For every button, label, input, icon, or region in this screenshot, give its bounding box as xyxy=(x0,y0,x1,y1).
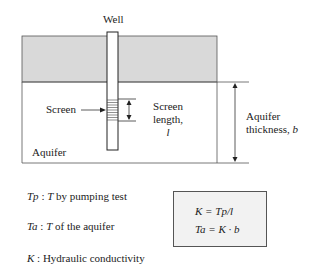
legend-separator: : xyxy=(38,220,47,232)
legend-separator: : xyxy=(39,190,48,202)
thickness-arrowhead-down xyxy=(233,157,238,162)
screen-label: Screen xyxy=(46,103,76,116)
screen-length-arrowhead-up xyxy=(127,100,132,105)
legend-text: by pumping test xyxy=(53,190,127,202)
legend-separator: : xyxy=(34,252,43,264)
formula-hydraulic-conductivity: K = Tp/l xyxy=(195,205,233,217)
well-label: Well xyxy=(103,13,124,26)
well-pipe xyxy=(107,32,118,150)
thickness-arrowhead-up xyxy=(233,83,238,88)
legend-item-ta: Ta : T of the aquifer xyxy=(27,220,114,233)
legend-item-tp: Tp : T by pumping test xyxy=(27,190,127,203)
aquifer-thickness-line1: Aquifer xyxy=(246,110,298,123)
legend-text: Hydraulic conductivity xyxy=(43,252,145,264)
screen-length-arrowhead-down xyxy=(127,115,132,120)
legend-text: of the aquifer xyxy=(52,220,114,232)
aquifer-thickness-label: Aquifer thickness, b xyxy=(246,110,298,136)
legend-symbol: Ta xyxy=(27,220,38,232)
formula-aquifer-transmissivity: Ta = K · b xyxy=(195,223,240,235)
screen-length-line1: Screen xyxy=(150,100,186,113)
aquifer-label: Aquifer xyxy=(32,146,66,159)
screen-length-dimension xyxy=(118,99,136,121)
screen-length-line2: length, xyxy=(150,113,186,126)
confining-layer xyxy=(22,36,217,82)
formula-box: K = Tp/l Ta = K · b xyxy=(173,191,267,247)
screen-length-symbol: l xyxy=(150,126,186,139)
aquifer-thickness-symbol: b xyxy=(292,123,298,135)
aquifer-thickness-line2: thickness, xyxy=(246,123,290,135)
legend-symbol: Tp xyxy=(27,190,39,202)
screen-pointer-arrow xyxy=(81,108,106,113)
screen-length-label: Screen length, l xyxy=(150,100,186,139)
legend-item-k: K : Hydraulic conductivity xyxy=(27,252,145,265)
